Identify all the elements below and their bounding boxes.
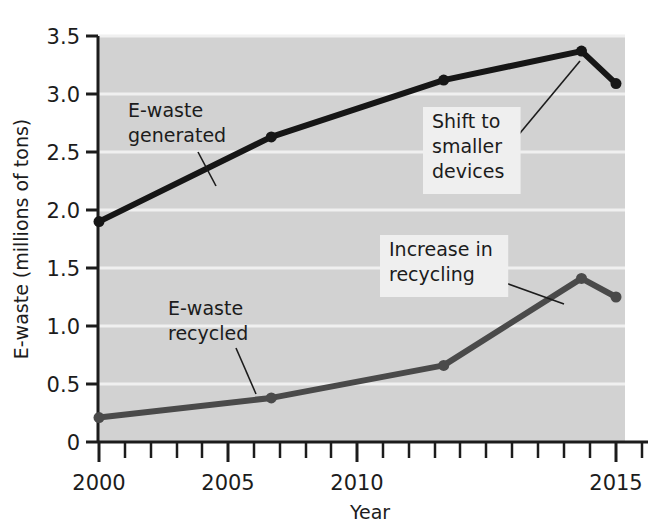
data-point-marker [266,392,277,403]
data-point-marker [438,360,449,371]
annotation-label: recycled [168,322,248,344]
data-point-marker [94,216,105,227]
y-axis-title: E-waste (millions of tons) [10,119,32,360]
y-tick-label: 2.0 [47,199,80,223]
data-point-marker [94,412,105,423]
y-tick-label: 0.5 [47,373,80,397]
x-tick-label: 2000 [72,471,125,495]
annotation-label: Shift to [432,110,500,132]
y-axis-ticks [86,36,98,442]
x-tick-label: 2010 [330,471,383,495]
y-axis-tick-labels: 0 0.5 1.0 1.5 2.0 2.5 3.0 3.5 [47,25,80,455]
data-point-marker [611,78,622,89]
annotation-label: E-waste [168,297,243,319]
y-tick-label: 1.0 [47,315,80,339]
annotation-label: E-waste [128,99,203,121]
e-waste-line-chart: 0 0.5 1.0 1.5 2.0 2.5 3.0 3.5 [0,0,652,528]
annotation-label: smaller [432,135,502,157]
x-tick-label: 2005 [201,471,254,495]
data-point-marker [576,46,587,57]
x-axis-tick-labels: 2000 2005 2010 2015 [72,471,642,495]
data-point-marker [266,131,277,142]
data-point-marker [438,75,449,86]
annotation-label: recycling [389,263,475,285]
annotation-label: generated [128,124,226,146]
annotation-label: devices [432,160,504,182]
y-tick-label: 3.5 [47,25,80,49]
y-tick-label: 3.0 [47,83,80,107]
x-axis-title: Year [349,501,390,523]
x-tick-label: 2015 [589,471,642,495]
x-axis-minor-ticks [125,442,642,458]
data-point-marker [611,292,622,303]
y-tick-label: 1.5 [47,257,80,281]
annotation-label: Increase in [389,238,493,260]
y-tick-label: 2.5 [47,141,80,165]
y-tick-label: 0 [67,431,80,455]
data-point-marker [576,273,587,284]
